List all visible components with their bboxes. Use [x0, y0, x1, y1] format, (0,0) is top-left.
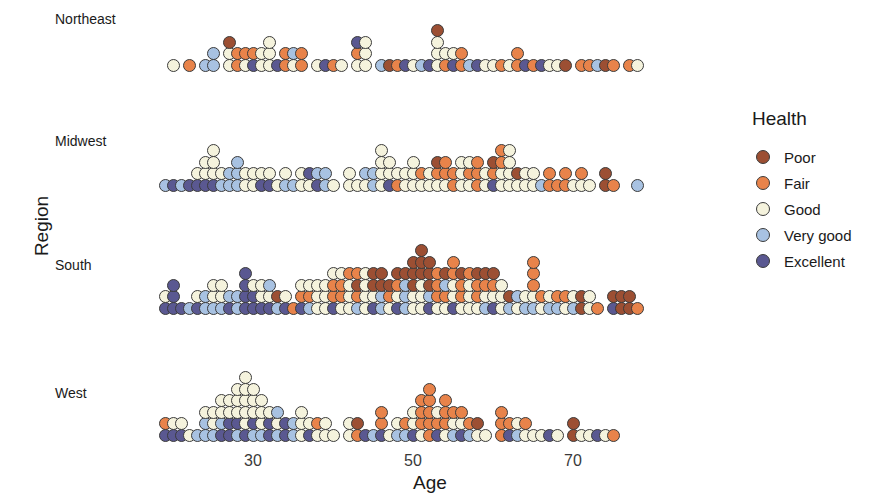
legend-item-poor[interactable]: Poor: [750, 144, 873, 170]
dot: [599, 167, 612, 180]
dot: [255, 394, 268, 407]
dot: [527, 167, 540, 180]
dot: [167, 59, 180, 72]
dot: [559, 167, 572, 180]
dot: [455, 406, 468, 419]
dot: [591, 302, 604, 315]
dot: [575, 167, 588, 180]
dot: [247, 383, 260, 396]
legend-swatch-poor-icon: [756, 150, 770, 164]
dot: [631, 302, 644, 315]
dots-layer: [0, 0, 720, 501]
dot: [207, 59, 220, 72]
dot: [503, 144, 516, 157]
dot: [511, 47, 524, 60]
dot: [359, 36, 372, 49]
legend-item-fair[interactable]: Fair: [750, 170, 873, 196]
dot: [375, 267, 388, 280]
dot: [319, 417, 332, 430]
dot: [495, 406, 508, 419]
x-tick-label-30: 30: [223, 452, 283, 470]
dot: [215, 279, 228, 292]
dot: [263, 279, 276, 292]
dot: [279, 167, 292, 180]
dot: [447, 256, 460, 269]
dot: [407, 156, 420, 169]
dot: [263, 36, 276, 49]
dot: [263, 47, 276, 60]
legend-item-very-good[interactable]: Very good: [750, 222, 873, 248]
dot: [431, 24, 444, 37]
dot: [375, 406, 388, 419]
dot: [167, 279, 180, 292]
legend-label-very-good: Very good: [784, 227, 852, 244]
dot: [359, 59, 372, 72]
legend-label-excellent: Excellent: [784, 253, 845, 270]
legend: Health Poor Fair Good Very good Excellen…: [750, 108, 873, 274]
dot: [519, 417, 532, 430]
dot: [423, 394, 436, 407]
dot: [183, 59, 196, 72]
dot: [343, 167, 356, 180]
dot: [239, 267, 252, 280]
dot: [551, 429, 564, 442]
dot-plot-figure: Region Northeast Midwest South West 30 5…: [0, 0, 873, 501]
legend-item-good[interactable]: Good: [750, 196, 873, 222]
dot: [207, 144, 220, 157]
dot: [439, 394, 452, 407]
dot: [527, 267, 540, 280]
dot: [631, 179, 644, 192]
dot: [431, 36, 444, 49]
dot: [375, 417, 388, 430]
dot: [351, 417, 364, 430]
dot: [295, 406, 308, 419]
dot: [487, 267, 500, 280]
dot: [327, 179, 340, 192]
dot: [231, 156, 244, 169]
dot: [471, 417, 484, 430]
dot: [383, 156, 396, 169]
dot: [479, 429, 492, 442]
dot: [167, 290, 180, 303]
dot: [359, 47, 372, 60]
dot: [263, 167, 276, 180]
x-axis-label: Age: [380, 472, 480, 494]
dot: [559, 59, 572, 72]
legend-label-fair: Fair: [784, 175, 810, 192]
dot: [207, 156, 220, 169]
dot: [423, 383, 436, 396]
dot: [327, 429, 340, 442]
dot: [423, 256, 436, 269]
dot: [607, 59, 620, 72]
legend-swatch-very-good-icon: [756, 228, 770, 242]
dot: [567, 417, 580, 430]
dot: [527, 279, 540, 292]
legend-swatch-fair-icon: [756, 176, 770, 190]
dot: [295, 59, 308, 72]
legend-label-good: Good: [784, 201, 821, 218]
legend-label-poor: Poor: [784, 149, 816, 166]
x-tick-label-70: 70: [543, 452, 603, 470]
dot: [335, 59, 348, 72]
dot: [527, 256, 540, 269]
dot: [455, 47, 468, 60]
dot: [375, 144, 388, 157]
dot: [503, 156, 516, 169]
dot: [607, 179, 620, 192]
dot: [543, 167, 556, 180]
dot: [583, 179, 596, 192]
legend-item-excellent[interactable]: Excellent: [750, 248, 873, 274]
dot: [175, 417, 188, 430]
dot: [623, 290, 636, 303]
dot: [279, 290, 292, 303]
dot: [439, 156, 452, 169]
legend-title: Health: [750, 108, 873, 130]
dot: [207, 47, 220, 60]
legend-swatch-good-icon: [756, 202, 770, 216]
dot: [223, 36, 236, 49]
x-tick-label-50: 50: [383, 452, 443, 470]
dot: [607, 429, 620, 442]
dot: [319, 167, 332, 180]
dot: [295, 47, 308, 60]
dot: [271, 406, 284, 419]
